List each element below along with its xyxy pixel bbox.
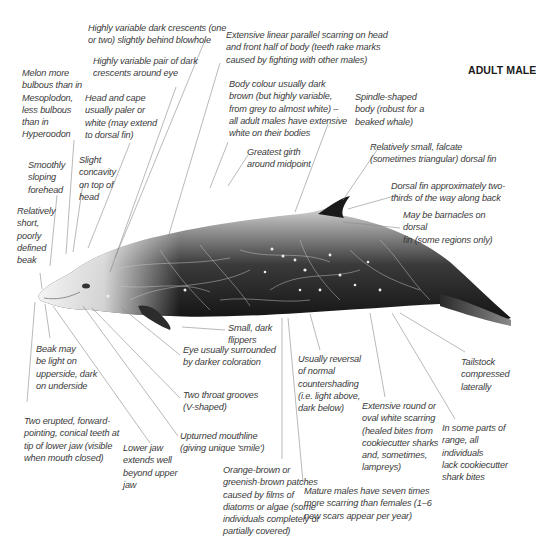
- annotation-crescents-blowhole: Highly variable dark crescents (one or t…: [88, 22, 226, 47]
- annotation-head-concavity: Slight concavity on top of head: [79, 154, 116, 203]
- dorsal-fin: [318, 196, 350, 218]
- annotation-tailstock: Tailstock compressed laterally: [461, 356, 510, 393]
- annotation-body-colour: Body colour usually dark brown (but high…: [229, 78, 347, 139]
- annotation-barnacles: May be barnacles on dorsal fin (some reg…: [403, 209, 511, 246]
- annotation-lower-jaw: Lower jaw extends well beyond upper jaw: [123, 442, 177, 491]
- annotation-linear-scarring: Extensive linear parallel scarring on he…: [226, 29, 388, 66]
- annotation-forehead: Smoothly sloping forehead: [28, 159, 65, 196]
- annotation-spindle-body: Spindle-shaped body (robust for a beaked…: [355, 91, 424, 128]
- annotation-mature-males: Mature males have seven times more scarr…: [304, 485, 432, 522]
- whale-eye: [82, 284, 90, 289]
- annotation-countershading: Usually reversal of normal countershadin…: [298, 353, 361, 414]
- annotation-throat-grooves: Two throat grooves (V-shaped): [183, 389, 258, 414]
- annotation-flippers: Small, dark flippers: [228, 322, 272, 347]
- annotation-upturned-mouth: Upturned mouthline (giving unique 'smile…: [180, 430, 264, 455]
- annotation-dorsal-fin-shape: Relatively small, falcate (sometimes tri…: [370, 141, 496, 166]
- annotation-eye: Eye usually surrounded by darker colorat…: [183, 344, 276, 369]
- annotation-teeth: Two erupted, forward- pointing, conical …: [24, 415, 119, 464]
- annotation-round-scarring: Extensive round or oval white scarring (…: [362, 400, 438, 474]
- annotation-cookiecutter-absent: In some parts of range, all individuals …: [442, 422, 511, 483]
- annotation-melon: Melon more bulbous than in Mesoplodon, l…: [22, 67, 82, 141]
- annotation-beak-colour: Beak may be light on upperside, dark on …: [36, 343, 97, 392]
- annotation-dorsal-fin-position: Dorsal fin approximately two- thirds of …: [391, 180, 505, 205]
- annotation-crescents-eye: Highly variable pair of dark crescents a…: [93, 55, 198, 80]
- annotation-greatest-girth: Greatest girth around midpoint: [247, 146, 311, 171]
- annotation-short-beak: Relatively short, poorly defined beak: [17, 205, 55, 266]
- annotation-head-cape: Head and cape usually paler or white (ma…: [85, 92, 157, 141]
